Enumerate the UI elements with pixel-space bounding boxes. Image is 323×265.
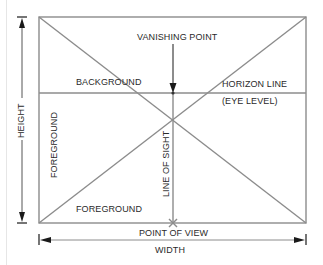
arrow-left-icon	[40, 237, 51, 243]
arrow-down-icon	[19, 212, 25, 222]
background-label: BACKGROUND	[76, 78, 142, 87]
width-label: WIDTH	[155, 246, 185, 255]
vanishing-point-arrow	[170, 44, 177, 95]
point-of-view-label: POINT OF VIEW	[139, 229, 208, 238]
height-label: HEIGHT	[17, 103, 26, 138]
vanishing-point-label: VANISHING POINT	[137, 33, 217, 42]
arrow-right-icon	[294, 237, 305, 243]
arrow-up-icon	[19, 18, 25, 28]
line-of-sight-label: LINE OF SIGHT	[162, 131, 171, 197]
foreground-left-label: FOREGROUND	[50, 112, 59, 178]
horizon-line-label: HORIZON LINE	[222, 80, 287, 89]
eye-level-label: (EYE LEVEL)	[222, 97, 278, 106]
foreground-bottom-label: FOREGROUND	[76, 205, 142, 214]
